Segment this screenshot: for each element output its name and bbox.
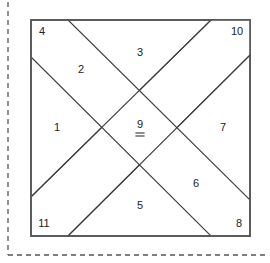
region-label-9: 9 (137, 118, 143, 130)
region-label-10: 10 (231, 25, 243, 37)
geometric-partition-figure: 1 2 3 4 5 6 7 8 9 10 11 (0, 0, 270, 263)
region-label-1: 1 (54, 121, 60, 133)
diagram-canvas: 1 2 3 4 5 6 7 8 9 10 11 (0, 0, 270, 263)
region-label-6: 6 (193, 177, 199, 189)
region-label-2: 2 (78, 63, 84, 75)
region-label-7: 7 (220, 121, 226, 133)
region-label-3: 3 (137, 46, 143, 58)
region-label-8: 8 (236, 217, 242, 229)
region-label-4: 4 (39, 25, 45, 37)
region-label-5: 5 (137, 199, 143, 211)
region-label-11: 11 (38, 217, 49, 229)
